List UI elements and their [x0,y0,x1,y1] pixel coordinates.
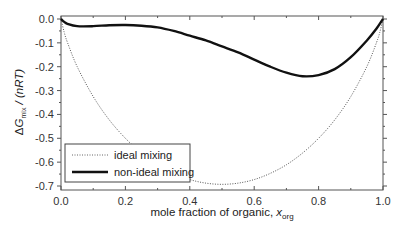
y-tick-label: -0.7 [35,180,54,192]
x-tick-label: 0.0 [53,195,68,207]
legend: ideal mixing non-ideal mixing [65,144,194,182]
y-tick-label: -0.3 [35,85,54,97]
legend-label-ideal: ideal mixing [114,149,172,161]
y-tick-label: -0.1 [35,37,54,49]
chart: 0.0-0.1-0.2-0.3-0.4-0.5-0.6-0.7 0.00.20.… [0,0,406,231]
legend-label-nonideal: non-ideal mixing [114,166,194,178]
x-tick-label: 0.2 [118,195,133,207]
x-axis-title: mole fraction of organic, xorg [150,206,293,221]
x-tick-label: 1.0 [375,195,390,207]
x-tick-label: 0.8 [311,195,326,207]
y-tick-label: -0.2 [35,61,54,73]
series-non-ideal-mixing [61,19,383,76]
y-tick-label: -0.4 [35,108,54,120]
y-tick-label: 0.0 [39,13,54,25]
y-axis-title: ΔGmix / (nRT) [13,69,27,135]
y-tick-label: -0.5 [35,132,54,144]
y-tick-label: -0.6 [35,156,54,168]
